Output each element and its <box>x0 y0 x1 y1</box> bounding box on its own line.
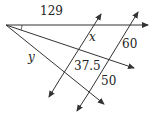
label-50: 50 <box>101 75 116 87</box>
label-x: x <box>89 31 96 43</box>
transversal-left-tail <box>49 79 60 97</box>
label-60: 60 <box>122 38 137 50</box>
angle-arc <box>21 25 22 30</box>
label-129: 129 <box>40 5 63 17</box>
label-37-5: 37.5 <box>74 60 101 72</box>
label-y: y <box>28 51 35 63</box>
ray-middle <box>6 25 134 68</box>
transversal-right-tail <box>77 94 88 111</box>
